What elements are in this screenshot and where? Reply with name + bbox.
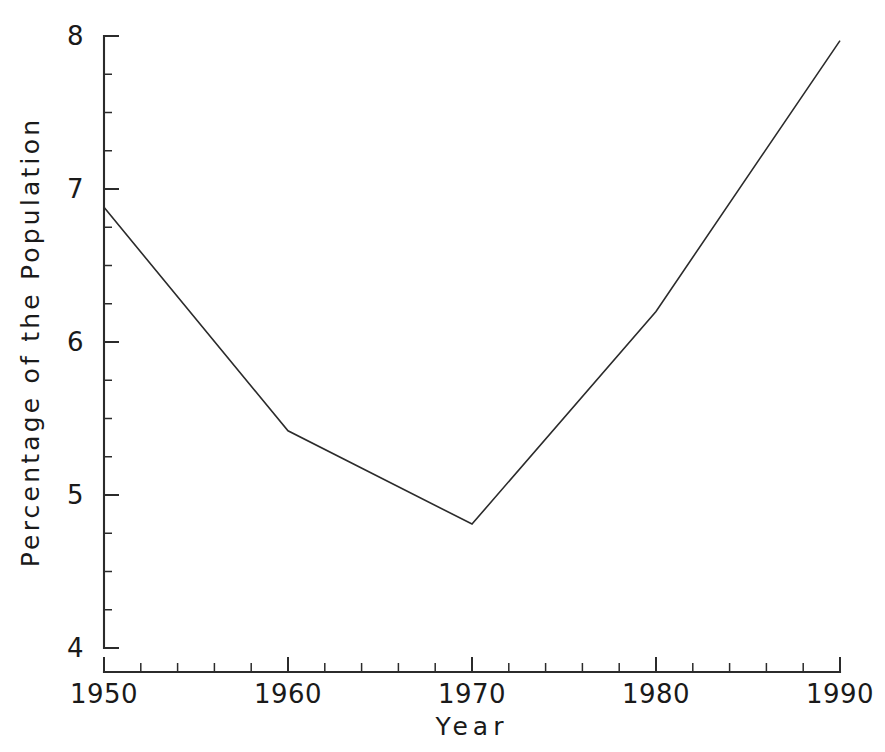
chart-figure: 8 7 6 5 4 1950 1960 1970 1980 1990 Year … [0, 0, 885, 752]
line-chart-canvas [0, 0, 885, 752]
x-tick-label-1950: 1950 [70, 679, 138, 709]
y-tick-label-5: 5 [40, 480, 84, 510]
plot-background [0, 0, 885, 752]
x-tick-label-1960: 1960 [254, 679, 322, 709]
y-axis-title: Percentage of the Population [16, 117, 45, 568]
x-axis-title: Year [436, 712, 509, 741]
y-tick-label-7: 7 [40, 174, 84, 204]
y-tick-label-8: 8 [40, 21, 84, 51]
y-tick-label-6: 6 [40, 327, 84, 357]
x-tick-label-1990: 1990 [806, 679, 874, 709]
x-tick-label-1980: 1980 [622, 679, 690, 709]
y-tick-label-4: 4 [40, 633, 84, 663]
x-tick-label-1970: 1970 [438, 679, 506, 709]
